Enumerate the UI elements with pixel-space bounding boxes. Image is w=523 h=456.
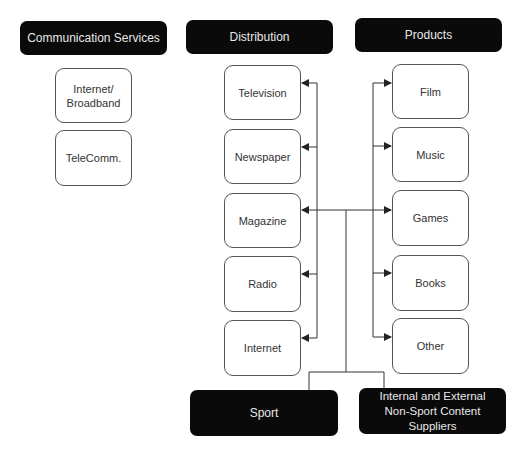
node-label: Music: [416, 148, 445, 162]
node-television: Television: [224, 65, 301, 120]
node-other: Other: [392, 318, 469, 374]
header-products: Products: [355, 18, 502, 52]
header-label: Communication Services: [27, 31, 160, 46]
source-label: Sport: [250, 406, 279, 421]
node-label: Film: [420, 85, 441, 99]
node-label: Internet: [244, 341, 281, 355]
node-radio: Radio: [224, 256, 301, 312]
node-label-line2: Broadband: [67, 96, 121, 110]
node-books: Books: [392, 255, 469, 311]
header-label: Distribution: [229, 30, 289, 45]
header-label: Products: [405, 28, 452, 43]
source-content-suppliers: Internal and External Non-Sport Content …: [359, 388, 506, 434]
node-label: Other: [417, 339, 445, 353]
source-label-line2: Non-Sport Content Suppliers: [359, 404, 506, 434]
node-label: Magazine: [239, 214, 287, 228]
node-music: Music: [392, 127, 469, 182]
node-internet-broadband: Internet/ Broadband: [55, 68, 132, 123]
node-games: Games: [392, 190, 469, 246]
node-label: Newspaper: [235, 150, 291, 164]
node-label-line1: Internet/: [67, 82, 121, 96]
source-sport: Sport: [190, 390, 338, 436]
node-newspaper: Newspaper: [224, 129, 301, 184]
node-label: Television: [238, 86, 286, 100]
node-label: TeleComm.: [66, 151, 122, 165]
node-film: Film: [392, 64, 469, 119]
node-label: Books: [415, 276, 446, 290]
node-magazine: Magazine: [224, 193, 301, 248]
node-label: Radio: [248, 277, 277, 291]
source-label-line1: Internal and External: [359, 389, 506, 404]
header-communication-services: Communication Services: [20, 21, 167, 55]
header-distribution: Distribution: [186, 20, 333, 54]
node-label: Games: [413, 211, 448, 225]
node-internet: Internet: [224, 320, 301, 376]
node-telecomm: TeleComm.: [55, 130, 132, 186]
